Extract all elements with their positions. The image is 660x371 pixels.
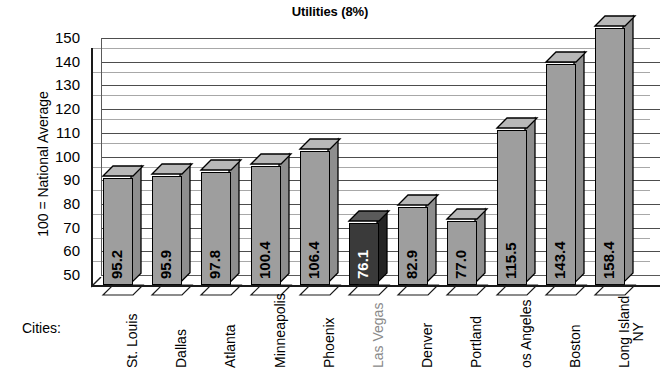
x-axis-category-labels: St. LouisDallasAtlantaMinneapolisPhoenix… (91, 290, 660, 371)
x-axis-category-label: Atlanta (223, 324, 237, 368)
y-axis-line (91, 48, 93, 285)
bar-top-face (595, 18, 625, 28)
x-axis-category-label: Portland (469, 316, 483, 368)
x-axis-category-label: Long Island NY (617, 296, 645, 368)
y-axis-tick-labels: 1501401301201101009080706050 (44, 0, 80, 371)
x-axis-category-label: Dallas (174, 329, 188, 368)
bar-top-face (497, 120, 527, 130)
y-axis-tick-label: 60 (46, 243, 80, 258)
y-axis-tick-label: 100 (46, 149, 80, 164)
y-axis-tick-label: 150 (46, 30, 80, 45)
bar[interactable]: 77.0 (447, 221, 477, 285)
gridline (101, 38, 660, 39)
x-axis-title: Cities: (22, 320, 61, 336)
bar-front-face (251, 166, 281, 285)
bar[interactable]: 100.4 (251, 166, 281, 285)
bar-top-face (152, 166, 182, 176)
x-axis-category-label: Las Vegas (371, 303, 385, 368)
bar-top-face (201, 162, 231, 172)
bar-top-face (300, 141, 330, 151)
bar-front-face (349, 223, 379, 285)
bar-front-face (201, 172, 231, 285)
x-axis-category-label: Minneapolis (273, 293, 287, 368)
bar-front-face (546, 64, 576, 285)
bar-top-face (103, 168, 133, 178)
bar-front-face (595, 28, 625, 285)
bar-front-face (398, 207, 428, 285)
bar[interactable]: 95.2 (103, 178, 133, 285)
y-axis-tick-label: 120 (46, 101, 80, 116)
x-axis-category-label: Denver (420, 323, 434, 368)
bar[interactable]: 76.1 (349, 223, 379, 285)
bar-front-face (152, 176, 182, 285)
x-axis-category-label: Boston (568, 324, 582, 368)
chart-screenshot: Utilities (8%) 100 = National Average 15… (0, 0, 660, 371)
y-axis-tick-label: 140 (46, 54, 80, 69)
plot-area: 95.295.997.8100.4106.476.182.977.0115.51… (91, 38, 660, 285)
bar-top-face (349, 213, 379, 223)
y-axis-tick-label: 110 (46, 125, 80, 140)
x-axis-category-label: St. Louis (125, 314, 139, 368)
bar-top-face (546, 54, 576, 64)
y-axis-tick-label: 90 (46, 172, 80, 187)
y-axis-tick-label: 130 (46, 77, 80, 92)
bar-front-face (103, 178, 133, 285)
bar[interactable]: 82.9 (398, 207, 428, 285)
bar-top-face (398, 197, 428, 207)
bar[interactable]: 158.4 (595, 28, 625, 285)
bar[interactable]: 115.5 (497, 130, 527, 285)
bar-top-face (447, 211, 477, 221)
x-axis-category-label: os Angeles (519, 300, 533, 369)
x-axis-line (91, 285, 660, 287)
bar-top-face (251, 156, 281, 166)
bar[interactable]: 143.4 (546, 64, 576, 285)
bar[interactable]: 95.9 (152, 176, 182, 285)
bar-front-face (447, 221, 477, 285)
gridline-front (91, 48, 650, 49)
chart-title: Utilities (8%) (0, 4, 660, 19)
y-axis-line-back (101, 38, 102, 275)
bar[interactable]: 106.4 (300, 151, 330, 285)
x-axis-category-label: Phoenix (322, 317, 336, 368)
floor-diagonal (91, 275, 102, 286)
y-axis-tick-label: 50 (46, 267, 80, 282)
bar[interactable]: 97.8 (201, 172, 231, 285)
bar-front-face (300, 151, 330, 285)
bar-front-face (497, 130, 527, 285)
y-axis-tick-label: 70 (46, 220, 80, 235)
y-axis-tick-label: 80 (46, 196, 80, 211)
